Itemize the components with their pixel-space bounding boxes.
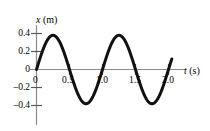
x-tick-label-0: 0 — [33, 75, 38, 85]
x-tick-label-2.0: 2.0 — [162, 75, 174, 85]
y-tick-label-neg0.4: –0.4 — [0, 100, 30, 110]
x-axis-unit: (s) — [189, 65, 200, 76]
x-tick-label-1.0: 1.0 — [96, 75, 108, 85]
y-axis-title: x (m) — [36, 14, 57, 25]
x-axis-title: t (s) — [184, 65, 200, 76]
plot-canvas — [0, 0, 210, 131]
sine-wave-chart-figure: x (m) t (s) 0.4 0.2 0 –0.2 –0.4 0 0.5 1.… — [0, 0, 210, 131]
x-axis-symbol: t — [184, 65, 187, 76]
y-axis-unit: (m) — [43, 14, 57, 25]
y-axis-symbol: x — [36, 14, 40, 25]
y-tick-label-0.4: 0.4 — [2, 28, 30, 38]
x-tick-label-1.5: 1.5 — [129, 75, 141, 85]
y-tick-label-0: 0 — [2, 64, 30, 74]
y-tick-label-neg0.2: –0.2 — [0, 82, 30, 92]
y-tick-label-0.2: 0.2 — [2, 46, 30, 56]
x-tick-label-0.5: 0.5 — [62, 75, 74, 85]
